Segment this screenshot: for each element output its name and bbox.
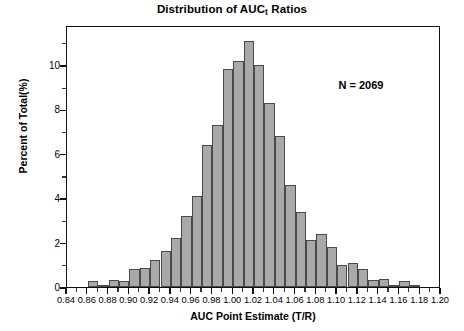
x-axis-tick <box>377 288 378 294</box>
x-axis-tick <box>86 288 87 294</box>
x-axis-minor-tick <box>242 288 243 292</box>
x-axis-tick <box>190 288 191 294</box>
histogram-bar <box>348 263 358 287</box>
x-axis-minor-tick <box>346 288 347 292</box>
histogram-bar <box>150 260 160 287</box>
histogram-bar <box>389 285 399 287</box>
plot-frame <box>66 26 440 288</box>
histogram-bar <box>379 279 389 287</box>
x-axis-tick <box>335 288 336 294</box>
x-axis-minor-tick <box>304 288 305 292</box>
histogram-bar <box>171 238 181 287</box>
histogram-bar <box>202 145 212 287</box>
chart-title-suffix: Ratios <box>268 3 307 15</box>
chart-title: Distribution of AUCt Ratios <box>0 3 464 17</box>
y-axis-minor-tick <box>62 221 66 222</box>
y-axis-minor-tick <box>62 132 66 133</box>
x-axis-tick <box>356 288 357 294</box>
histogram-bar <box>264 103 274 287</box>
x-axis-tick <box>148 288 149 294</box>
x-axis-tick <box>439 288 440 294</box>
x-axis-minor-tick <box>180 288 181 292</box>
x-axis-minor-tick <box>97 288 98 292</box>
histogram-bar <box>223 69 233 287</box>
x-axis-tick <box>294 288 295 294</box>
y-axis-tick <box>60 243 66 244</box>
x-axis-tick <box>107 288 108 294</box>
histogram-bar <box>399 281 409 287</box>
x-axis-tick <box>211 288 212 294</box>
histogram-bar <box>254 65 264 287</box>
histogram-bar <box>192 196 202 287</box>
histogram-bar <box>285 185 295 287</box>
y-axis-tick-label: 0 <box>20 282 60 293</box>
x-axis-minor-tick <box>325 288 326 292</box>
x-axis-tick <box>419 288 420 294</box>
x-axis-tick <box>252 288 253 294</box>
x-axis-minor-tick <box>138 288 139 292</box>
histogram-bar <box>337 265 347 287</box>
x-axis-minor-tick <box>408 288 409 292</box>
x-axis-minor-tick <box>221 288 222 292</box>
chart-title-main: Distribution of AUC <box>157 3 265 15</box>
x-axis-minor-tick <box>159 288 160 292</box>
y-axis-tick <box>60 65 66 66</box>
histogram-bar <box>296 212 306 287</box>
x-axis-minor-tick <box>387 288 388 292</box>
x-axis-tick-label: 1.20 <box>420 295 460 305</box>
histogram-bar <box>98 285 108 287</box>
histogram-bar <box>316 234 326 287</box>
x-axis-tick <box>315 288 316 294</box>
histogram-bar <box>327 247 337 287</box>
histogram-bar <box>161 251 171 287</box>
histogram-bar <box>358 269 368 287</box>
y-axis-minor-tick <box>62 265 66 266</box>
plot-area <box>67 27 439 287</box>
y-axis-tick <box>60 154 66 155</box>
y-axis-tick-label: 2 <box>20 238 60 249</box>
sample-size-annotation: N = 2069 <box>338 79 383 91</box>
histogram-bar <box>181 216 191 287</box>
y-axis-tick <box>60 198 66 199</box>
chart-figure: Distribution of AUCt Ratios 02468100.840… <box>0 0 464 331</box>
histogram-bar <box>140 268 150 287</box>
histogram-bar <box>129 269 139 287</box>
x-axis-minor-tick <box>200 288 201 292</box>
x-axis-title: AUC Point Estimate (T/R) <box>66 310 440 322</box>
histogram-bar <box>212 125 222 287</box>
x-axis-minor-tick <box>263 288 264 292</box>
histogram-bar <box>119 281 129 287</box>
x-axis-minor-tick <box>429 288 430 292</box>
histogram-bar <box>410 285 420 287</box>
histogram-bar <box>109 280 119 287</box>
histogram-bar <box>244 41 254 287</box>
x-axis-tick <box>169 288 170 294</box>
y-axis-minor-tick <box>62 43 66 44</box>
histogram-bar <box>88 281 98 287</box>
x-axis-tick <box>65 288 66 294</box>
y-axis-minor-tick <box>62 88 66 89</box>
histogram-bar <box>275 136 285 287</box>
y-axis-minor-tick <box>62 176 66 177</box>
histogram-bar <box>368 280 378 287</box>
x-axis-tick <box>398 288 399 294</box>
histogram-bar <box>233 61 243 287</box>
x-axis-minor-tick <box>76 288 77 292</box>
x-axis-minor-tick <box>367 288 368 292</box>
x-axis-tick <box>273 288 274 294</box>
histogram-bar <box>306 240 316 287</box>
x-axis-minor-tick <box>117 288 118 292</box>
x-axis-minor-tick <box>284 288 285 292</box>
y-axis-title: Percent of Total(%) <box>17 26 29 226</box>
x-axis-tick <box>128 288 129 294</box>
y-axis-tick <box>60 110 66 111</box>
x-axis-tick <box>232 288 233 294</box>
